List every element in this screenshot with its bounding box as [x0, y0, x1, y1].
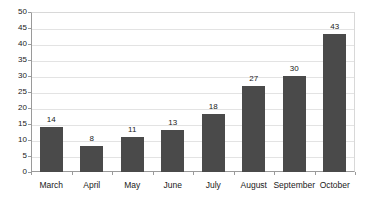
bar[interactable]	[202, 114, 225, 172]
bar-value-label: 43	[315, 23, 355, 31]
bar[interactable]	[323, 34, 346, 172]
x-axis-tick-mark	[72, 172, 73, 175]
bar-value-label: 18	[193, 103, 233, 111]
bar-value-label: 13	[153, 119, 193, 127]
x-axis-tick-mark	[112, 172, 113, 175]
x-axis-tick-mark	[193, 172, 194, 175]
bar[interactable]	[242, 86, 265, 172]
bar-value-label: 11	[112, 126, 152, 134]
x-axis-tick-mark	[234, 172, 235, 175]
x-axis-tick-mark	[31, 172, 32, 175]
bar[interactable]	[40, 127, 63, 172]
bar[interactable]	[161, 130, 184, 172]
bar-value-label: 14	[31, 116, 71, 124]
bars-layer: 148111318273043	[0, 0, 366, 206]
bar[interactable]	[121, 137, 144, 172]
bar-value-label: 27	[234, 75, 274, 83]
bar-chart: 05101520253035404550 148111318273043 Mar…	[0, 0, 366, 206]
bar-value-label: 30	[274, 65, 314, 73]
bar-value-label: 8	[72, 135, 112, 143]
bar[interactable]	[283, 76, 306, 172]
x-axis-tick-mark	[315, 172, 316, 175]
x-axis-tick-mark	[355, 172, 356, 175]
bar[interactable]	[80, 146, 103, 172]
x-axis-tick-mark	[153, 172, 154, 175]
x-axis-tick-labels: MarchAprilMayJuneJulyAugustSeptemberOcto…	[31, 180, 355, 194]
x-axis-tick-label: October	[305, 180, 365, 190]
x-axis-tick-mark	[274, 172, 275, 175]
